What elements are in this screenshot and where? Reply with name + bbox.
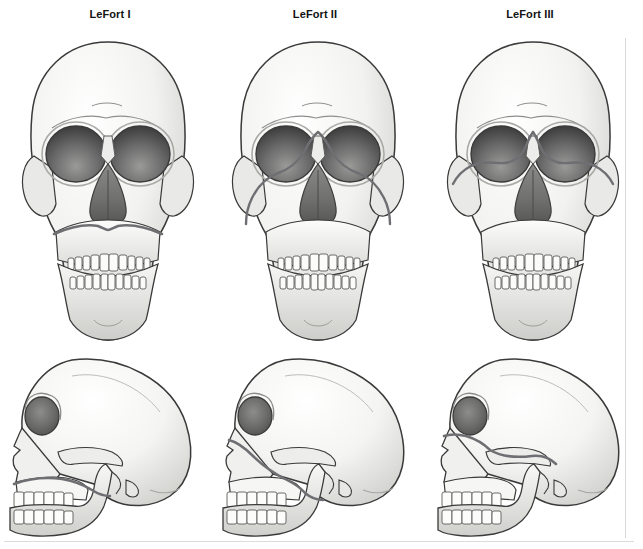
skull-drawing [447, 42, 618, 340]
page-edge-right [625, 38, 626, 538]
skull-lateral-lefort-2 [213, 348, 426, 543]
orbit-right [110, 126, 170, 182]
skull-lateral-lefort-1 [0, 348, 213, 543]
lower-teeth [280, 274, 356, 290]
column-label-lefort-3: LeFort III [440, 8, 620, 20]
skull-drawing [223, 359, 404, 536]
orbit [453, 397, 487, 435]
skull-frontal-lefort-2 [218, 28, 418, 348]
lefort-figure: LeFort I LeFort II LeFort III [0, 0, 643, 549]
orbit-left [256, 126, 316, 182]
lower-teeth [442, 510, 501, 524]
skull-frontal-lefort-1 [8, 28, 208, 348]
orbit-right [320, 126, 380, 182]
lower-teeth [495, 274, 571, 290]
orbit [238, 397, 272, 435]
lower-teeth [14, 510, 73, 524]
skull-drawing [10, 359, 191, 536]
skull-drawing [232, 42, 403, 340]
lower-teeth [227, 510, 286, 524]
orbit-left [46, 126, 106, 182]
column-label-lefort-2: LeFort II [225, 8, 405, 20]
lower-teeth [70, 274, 146, 290]
orbit [25, 397, 59, 435]
column-label-lefort-1: LeFort I [20, 8, 200, 20]
skull-drawing [438, 359, 619, 536]
skull-drawing [22, 42, 193, 340]
page-edge-bottom [4, 541, 634, 542]
skull-lateral-lefort-3 [428, 348, 641, 543]
skull-frontal-lefort-3 [433, 28, 633, 348]
